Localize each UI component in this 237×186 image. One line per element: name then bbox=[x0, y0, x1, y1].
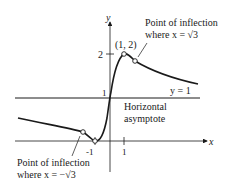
inflection-left-condition: where x = −√3 bbox=[17, 169, 76, 180]
asymptote-equation-label: y = 1 bbox=[170, 85, 191, 96]
maximum-point-marker bbox=[122, 52, 127, 57]
inflection-right-condition: where x = √3 bbox=[145, 29, 198, 40]
y-axis-label: y bbox=[105, 12, 111, 23]
inflection-left-marker bbox=[81, 130, 86, 135]
x-intercept-marker bbox=[93, 139, 98, 144]
x-tick-label-neg1: -1 bbox=[86, 147, 94, 157]
x-axis-label: x bbox=[208, 136, 214, 147]
x-tick-label-1: 1 bbox=[122, 147, 127, 157]
asymptote-description-line2: asymptote bbox=[124, 113, 166, 124]
function-graph: x y 2 1 1 -1 (1, 2) Point of inflection … bbox=[0, 0, 237, 186]
asymptote-description-line1: Horizontal bbox=[124, 101, 167, 112]
y-tick-label-2: 2 bbox=[98, 49, 103, 60]
y-tick-label-1: 1 bbox=[102, 88, 107, 98]
inflection-right-leader bbox=[138, 43, 147, 57]
function-curve bbox=[18, 54, 198, 141]
inflection-right-title: Point of inflection bbox=[145, 17, 218, 28]
inflection-left-leader bbox=[72, 136, 80, 156]
inflection-right-marker bbox=[133, 59, 138, 64]
maximum-point-label: (1, 2) bbox=[115, 39, 137, 51]
inflection-left-title: Point of inflection bbox=[17, 157, 90, 168]
